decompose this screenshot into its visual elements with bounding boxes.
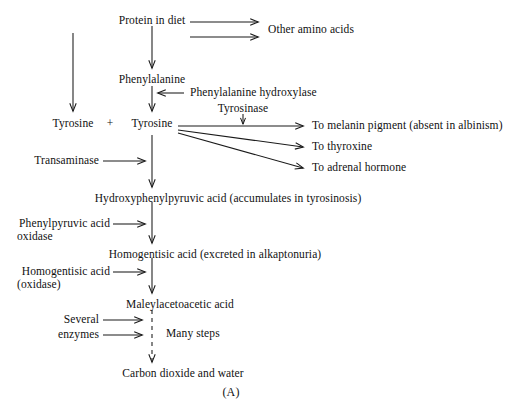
node-phenylalanine: Phenylalanine [119,73,185,86]
node-other-amino-acids: Other amino acids [268,23,354,36]
node-to-thyroxine: To thyroxine [312,140,372,153]
enzyme-phenylpyruvic-acid-oxidase-line2: oxidase [17,230,53,243]
enzyme-tyrosinase: Tyrosinase [218,102,269,115]
node-hydroxyphenylpyruvic-acid: Hydroxyphenylpyruvic acid (accumulates i… [95,192,362,205]
node-carbon-dioxide-and-water: Carbon dioxide and water [122,367,244,380]
enzyme-several-enzymes-line2: enzymes [58,328,99,341]
enzyme-homogentisic-acid-oxidase-line2: (oxidase) [17,278,61,291]
pathway-arrow-layer [0,0,526,415]
node-tyrosine-left: Tyrosine [53,117,94,130]
panel-letter: (A) [223,386,240,399]
node-protein-in-diet: Protein in diet [119,14,186,27]
node-to-melanin-pigment: To melanin pigment (absent in albinism) [312,119,503,132]
enzyme-phenylpyruvic-acid-oxidase-line1: Phenylpyruvic acid [19,217,110,230]
node-maleylacetoacetic-acid: Maleylacetoacetic acid [126,298,234,311]
plus-sign: + [107,117,114,130]
enzyme-homogentisic-acid-oxidase-line1: Homogentisic acid [22,265,110,278]
enzyme-transaminase: Transaminase [34,154,99,167]
node-homogentisic-acid: Homogentisic acid (excreted in alkaptonu… [109,248,322,261]
pathway-diagram: Protein in diet Other amino acids Phenyl… [0,0,526,415]
enzyme-phenylalanine-hydroxylase: Phenylalanine hydroxylase [190,86,317,99]
node-tyrosine-right: Tyrosine [132,117,173,130]
enzyme-several-enzymes-line1: Several [64,313,99,326]
node-to-adrenal-hormone: To adrenal hormone [312,161,406,174]
annotation-many-steps: Many steps [166,327,220,340]
